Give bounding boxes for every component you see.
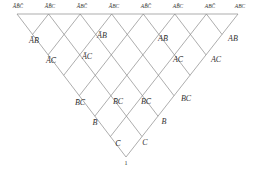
node-label-ab-0: ĀB̄ xyxy=(29,37,39,45)
node-label-top-7: ABC xyxy=(235,4,245,10)
lattice-line-left-7 xyxy=(126,14,238,157)
lattice-line-left-5 xyxy=(95,14,175,116)
node-label-c: C xyxy=(142,139,147,147)
node-label-top-6: ABC̄ xyxy=(205,4,215,10)
lattice-line-left-1 xyxy=(33,14,49,34)
node-label-one: 1 xyxy=(125,160,128,166)
lattice-line-left-3 xyxy=(64,14,112,75)
node-label-top-4: AB̄C̄ xyxy=(141,4,151,10)
node-label-top-1: ĀB̄C xyxy=(45,4,55,10)
node-label-not-c: C̄ xyxy=(115,140,120,148)
lattice-line-right-4 xyxy=(143,14,190,75)
node-label-ab-2: AB̄ xyxy=(158,35,168,43)
node-label-bc-1: B̄C xyxy=(113,98,123,106)
node-label-ab-3: AB xyxy=(228,35,238,43)
node-label-ac-2: AC̄ xyxy=(173,56,183,64)
lattice-diagram xyxy=(0,0,257,177)
lattice-line-right-6 xyxy=(206,14,222,34)
node-label-ac-0: ĀC̄ xyxy=(46,57,56,65)
lattice-lines xyxy=(17,14,238,157)
node-label-ac-3: AC xyxy=(211,56,221,64)
node-label-not-b: B̄ xyxy=(93,119,98,127)
node-label-ac-1: ĀC xyxy=(82,53,92,61)
node-label-top-0: ĀB̄C̄ xyxy=(13,4,23,10)
node-label-ab-1: ĀB xyxy=(97,32,107,40)
node-label-bc-0: B̄C̄ xyxy=(75,99,85,107)
node-label-bc-2: BC̄ xyxy=(141,98,151,106)
node-label-top-3: ĀBC xyxy=(109,4,119,10)
lattice-line-left-6 xyxy=(110,14,206,137)
node-label-bc-3: BC xyxy=(181,95,191,103)
node-label-top-5: AB̄C xyxy=(173,4,183,10)
node-label-b: B xyxy=(162,118,167,126)
node-label-top-2: ĀBC̄ xyxy=(77,4,87,10)
